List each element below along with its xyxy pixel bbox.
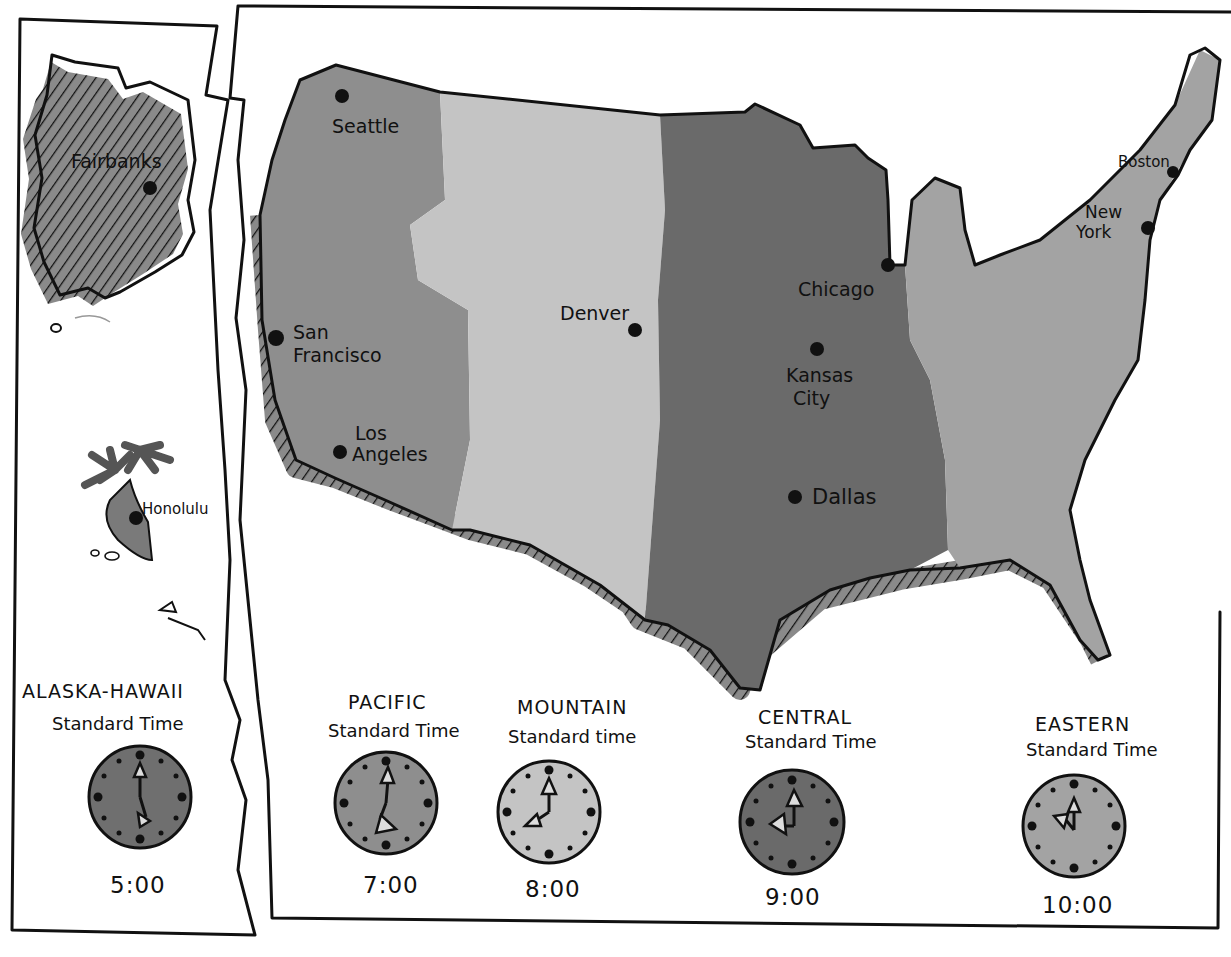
clock-icon: [1023, 775, 1125, 877]
zone-title: ALASKA-HAWAII: [22, 680, 184, 702]
city-label-san-francisco-line2: Francisco: [293, 344, 382, 366]
city-label-los-angeles-line1: Los: [355, 422, 387, 444]
city-dot-kansas-city: [810, 342, 824, 356]
zone-time: 7:00: [363, 872, 419, 898]
contiguous-us: [260, 48, 1220, 690]
city-label-new-york-line2: York: [1075, 222, 1112, 242]
city-dot-dallas: [788, 490, 802, 504]
zone-subtitle: Standard Time: [745, 731, 877, 752]
zone-pacific: PACIFIC Standard Time 7:00: [328, 691, 460, 898]
zone-time: 8:00: [525, 876, 581, 902]
clock-icon: [498, 761, 600, 863]
zone-time: 9:00: [765, 884, 821, 910]
city-label-honolulu: Honolulu: [142, 500, 209, 518]
city-label-dallas: Dallas: [812, 485, 877, 509]
zone-subtitle: Standard time: [508, 726, 636, 747]
city-dot-new-york: [1141, 221, 1155, 235]
zone-alaska-hawaii: ALASKA-HAWAII Standard Time 5:00: [22, 680, 191, 898]
city-label-los-angeles-line2: Angeles: [352, 443, 428, 465]
city-label-fairbanks: Fairbanks: [71, 150, 162, 172]
zone-subtitle: Standard Time: [52, 713, 184, 734]
city-label-seattle: Seattle: [332, 115, 399, 137]
city-dot-fairbanks: [143, 181, 157, 195]
clock-icon: [740, 770, 844, 874]
city-dot-chicago: [881, 258, 895, 272]
city-label-new-york-line1: New: [1085, 202, 1122, 222]
zone-subtitle: Standard Time: [328, 720, 460, 741]
city-label-boston: Boston: [1118, 153, 1170, 171]
zone-central: CENTRAL Standard Time 9:00: [740, 706, 877, 910]
alaska-landmass: [21, 55, 195, 332]
city-dot-seattle: [335, 89, 349, 103]
clock-icon: [335, 752, 437, 854]
zone-title: MOUNTAIN: [517, 696, 627, 718]
zone-title: EASTERN: [1035, 713, 1130, 735]
zone-eastern: EASTERN Standard Time 10:00: [1023, 713, 1158, 918]
zone-time: 5:00: [110, 872, 166, 898]
zone-title: PACIFIC: [348, 691, 427, 713]
zone-time: 10:00: [1042, 892, 1113, 918]
city-dot-los-angeles: [333, 445, 347, 459]
city-label-kansas-city-line2: City: [793, 387, 830, 409]
city-label-san-francisco-line1: San: [293, 321, 329, 343]
zone-subtitle: Standard Time: [1026, 739, 1158, 760]
city-dot-san-francisco: [268, 330, 284, 346]
city-label-kansas-city-line1: Kansas: [786, 364, 853, 386]
zone-mountain: MOUNTAIN Standard time 8:00: [498, 696, 636, 902]
hawaii-landmass: [85, 445, 205, 640]
zone-title: CENTRAL: [758, 706, 852, 728]
city-label-chicago: Chicago: [798, 278, 874, 300]
time-zone-map: Fairbanks Honolulu Seattle San Franci: [0, 0, 1231, 957]
city-label-denver: Denver: [560, 302, 629, 324]
city-dot-honolulu: [129, 511, 143, 525]
clock-icon: [89, 746, 191, 848]
city-dot-denver: [628, 323, 642, 337]
